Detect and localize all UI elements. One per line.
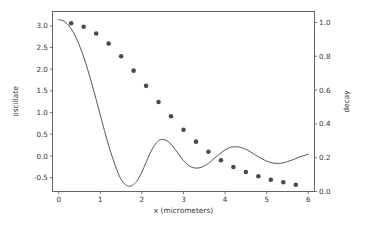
x-tick-label: 6 (306, 195, 311, 204)
y-tick-label: 1.5 (36, 86, 47, 95)
scatter-point (269, 177, 274, 182)
y-tick-label: 0.5 (36, 130, 47, 139)
y-tick-label: 2.0 (36, 65, 48, 74)
y2-tick-label: 1.0 (319, 18, 331, 27)
scatter-point (256, 174, 261, 179)
scatter-point (119, 54, 124, 59)
y-tick-label: 2.5 (36, 43, 47, 52)
scatter-point (81, 24, 86, 29)
scatter-point (281, 180, 286, 185)
y2-tick-label: 0.0 (319, 187, 331, 196)
y2-tick-label: 0.6 (319, 86, 331, 95)
scatter-point (181, 128, 186, 133)
scatter-point (106, 41, 111, 46)
plot-canvas: 0123456 -0.50.00.51.01.52.02.53.0 0.00.2… (0, 0, 371, 226)
y-tick-label: 1.0 (36, 108, 48, 117)
scatter-point (294, 182, 299, 187)
figure-background (0, 0, 371, 226)
scatter-point (131, 68, 136, 73)
x-tick-label: 2 (140, 195, 145, 204)
x-tick-label: 0 (56, 195, 61, 204)
x-tick-label: 5 (264, 195, 269, 204)
y-tick-label: 0.0 (36, 152, 48, 161)
scatter-point (206, 150, 211, 155)
x-tick-label: 4 (223, 195, 228, 204)
scatter-point (69, 21, 74, 26)
x-axis-label: x (micrometers) (154, 206, 213, 215)
scatter-point (156, 100, 161, 105)
scatter-point (219, 158, 224, 163)
scatter-point (144, 84, 149, 89)
y2-tick-label: 0.4 (319, 119, 331, 128)
x-tick-label: 3 (181, 195, 186, 204)
chart-figure: 0123456 -0.50.00.51.01.52.02.53.0 0.00.2… (0, 0, 371, 226)
y-tick-label: 3.0 (36, 21, 48, 30)
scatter-point (231, 165, 236, 170)
y-tick-label: -0.5 (34, 173, 48, 182)
y2-tick-label: 0.2 (319, 153, 330, 162)
scatter-point (94, 31, 99, 36)
scatter-point (244, 170, 249, 175)
x-tick-label: 1 (98, 195, 103, 204)
y-axis-right-label: decay (342, 90, 351, 113)
scatter-point (194, 139, 199, 144)
scatter-point (169, 114, 174, 119)
y-axis-left-label: oscillate (11, 86, 20, 117)
y2-tick-label: 0.8 (319, 52, 331, 61)
